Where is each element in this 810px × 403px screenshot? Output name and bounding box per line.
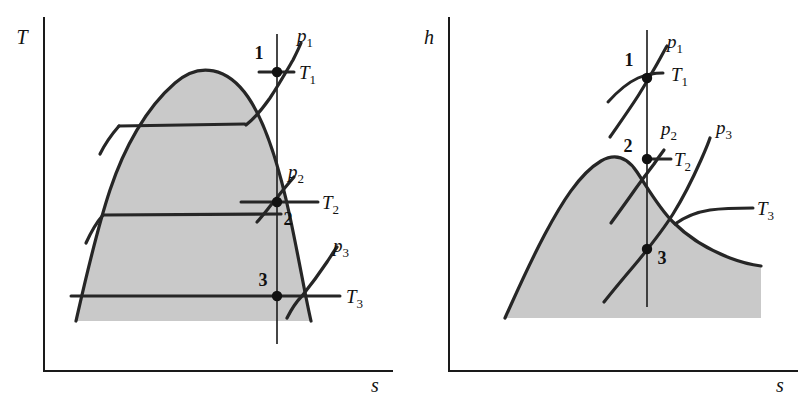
p2-label: p2 xyxy=(659,118,677,143)
state-point-1 xyxy=(642,73,652,83)
state-label-2: 2 xyxy=(284,209,293,229)
state-label-1: 1 xyxy=(255,43,264,63)
state-label-3: 3 xyxy=(658,248,667,268)
p1-label: p1 xyxy=(665,31,683,56)
t3-isotherm-curve xyxy=(675,208,753,224)
state-label-2: 2 xyxy=(624,136,633,156)
state-point-2 xyxy=(642,154,652,164)
p1-liquid-tail xyxy=(100,126,119,154)
t3-label: T3 xyxy=(757,198,774,223)
p1-label: p1 xyxy=(295,25,313,50)
y-axis-label: T xyxy=(16,26,29,48)
state-point-3 xyxy=(272,291,282,301)
x-axis-label: s xyxy=(776,374,784,396)
h-s-diagram-panel: h s p1 p2 p3 T1 T2 T3 1 2 3 xyxy=(405,0,810,403)
p1-saturation-segment xyxy=(119,124,245,126)
h-s-diagram-svg: h s p1 p2 p3 T1 T2 T3 1 2 3 xyxy=(405,0,810,403)
p2-saturation-segment xyxy=(103,214,281,215)
t3-label: T3 xyxy=(346,286,363,311)
state-label-1: 1 xyxy=(625,50,634,70)
state-point-3 xyxy=(642,244,652,254)
t-s-diagram-panel: T s p1 p2 p3 T1 T2 T3 1 2 3 xyxy=(0,0,405,403)
saturation-dome-fill xyxy=(76,70,311,321)
p3-label: p3 xyxy=(331,235,349,260)
state-point-1 xyxy=(272,67,282,77)
figure-container: T s p1 p2 p3 T1 T2 T3 1 2 3 xyxy=(0,0,810,403)
t1-label: T1 xyxy=(299,62,316,87)
x-axis-label: s xyxy=(371,374,379,396)
state-point-2 xyxy=(272,197,282,207)
p3-label: p3 xyxy=(714,117,732,142)
t2-label: T2 xyxy=(674,149,691,174)
state-label-3: 3 xyxy=(259,270,268,290)
t-s-diagram-svg: T s p1 p2 p3 T1 T2 T3 1 2 3 xyxy=(0,0,405,403)
y-axis-label: h xyxy=(424,26,434,48)
t2-label: T2 xyxy=(322,192,339,217)
t1-label: T1 xyxy=(671,64,688,89)
